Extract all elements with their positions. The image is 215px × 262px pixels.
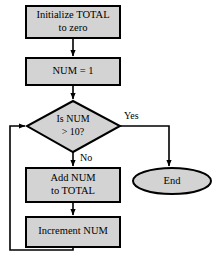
branch-label-no: No: [80, 152, 92, 163]
decision-num-line2: > 10?: [62, 126, 85, 137]
initialize-total-line2: to zero: [59, 22, 88, 33]
node-initialize-total: Initialize TOTAL to zero: [26, 6, 120, 38]
add-num-line1: Add NUM: [50, 172, 96, 183]
decision-num-line1: Is NUM: [56, 113, 89, 124]
flowchart-canvas: Initialize TOTAL to zero NUM = 1 Is NUM …: [0, 0, 215, 262]
connector-decision-yes-to-end: [120, 126, 169, 166]
node-decision-num: Is NUM > 10?: [27, 101, 120, 152]
branch-label-yes: Yes: [124, 110, 139, 121]
initialize-total-line1: Initialize TOTAL: [36, 9, 109, 20]
node-add-num: Add NUM to TOTAL: [26, 168, 120, 202]
increment-num-line1: Increment NUM: [38, 225, 108, 236]
add-num-line2: to TOTAL: [51, 185, 95, 196]
node-end-terminal: End: [133, 168, 211, 194]
node-set-num: NUM = 1: [26, 58, 120, 85]
end-terminal-line1: End: [164, 175, 182, 186]
set-num-line1: NUM = 1: [53, 65, 94, 76]
node-increment-num: Increment NUM: [26, 217, 120, 247]
flowchart-diagram: Initialize TOTAL to zero NUM = 1 Is NUM …: [0, 0, 215, 262]
